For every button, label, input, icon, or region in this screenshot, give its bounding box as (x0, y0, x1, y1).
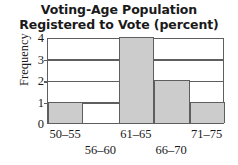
chart-title: Voting-Age Population Registered to Vote… (0, 2, 238, 32)
x-tick-label-56-60: 56–60 (78, 143, 122, 158)
bar-61-65 (119, 37, 154, 123)
y-tick-label-2: 2 (28, 76, 44, 86)
bar-66-70 (154, 80, 189, 123)
x-tick-label-66-70: 66–70 (149, 143, 193, 158)
y-tick-label-1: 1 (28, 98, 44, 108)
plot-area (47, 38, 224, 124)
x-axis-tick-labels: 50–55 56–60 61–65 66–70 71–75 (47, 124, 224, 164)
x-tick-label-71-75: 71–75 (185, 127, 229, 142)
y-tick-label-0: 0 (28, 119, 44, 129)
y-tick-label-4: 4 (28, 33, 44, 43)
chart-title-line-2: Registered to Vote (percent) (0, 17, 238, 32)
bar-71-75 (190, 102, 225, 124)
x-tick-label-61-65: 61–65 (114, 127, 158, 142)
histogram-figure: Voting-Age Population Registered to Vote… (0, 0, 238, 165)
bar-50-55 (48, 102, 83, 124)
chart-title-line-1: Voting-Age Population (0, 2, 238, 17)
y-tick-label-3: 3 (28, 55, 44, 65)
x-tick-label-50-55: 50–55 (43, 127, 87, 142)
plot-inner (48, 39, 223, 123)
y-axis-tick-labels: 4 3 2 1 0 (26, 38, 44, 124)
